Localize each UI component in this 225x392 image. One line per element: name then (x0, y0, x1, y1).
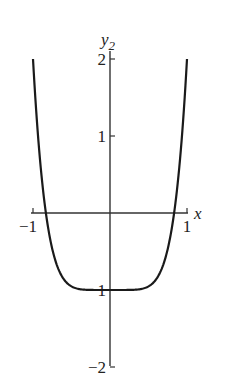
x-axis-label: x (193, 204, 202, 223)
plot-area: −1121−1−2 x y2 (0, 0, 225, 392)
svg-text:1: 1 (98, 127, 107, 146)
svg-text:2: 2 (98, 50, 107, 69)
svg-text:−1: −1 (19, 217, 37, 236)
svg-text:−2: −2 (88, 358, 106, 377)
svg-text:1: 1 (183, 217, 192, 236)
